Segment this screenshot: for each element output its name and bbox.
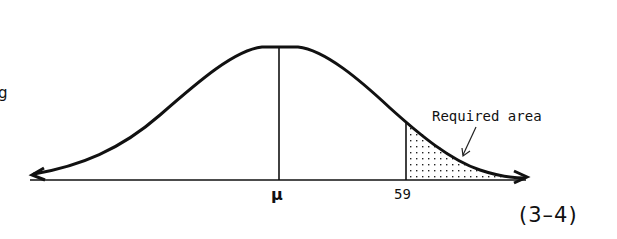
left-fragment-text: g bbox=[0, 84, 8, 102]
mean-label: μ bbox=[271, 185, 283, 204]
normal-distribution-diagram: g μ 59 Required area (3–4) bbox=[0, 0, 617, 239]
required-area-label: Required area bbox=[432, 108, 542, 124]
figure-number-label: (3–4) bbox=[519, 203, 578, 227]
cutoff-label: 59 bbox=[394, 186, 411, 202]
